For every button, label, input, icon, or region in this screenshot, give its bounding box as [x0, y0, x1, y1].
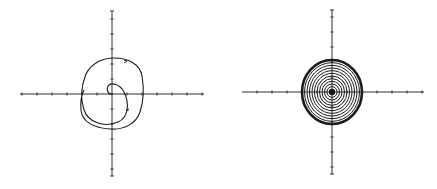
direction-arrow	[124, 60, 127, 63]
phase-portrait-figure	[0, 0, 437, 189]
figure-canvas	[0, 0, 437, 189]
right-phase-portrait	[242, 10, 424, 174]
left-phase-portrait	[20, 11, 204, 176]
center-point	[329, 89, 335, 95]
